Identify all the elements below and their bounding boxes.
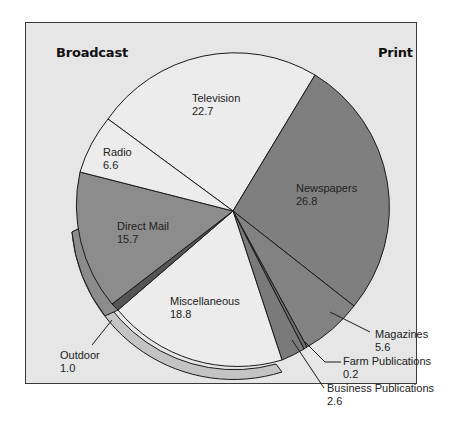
label-business-publications: Business Publications 2.6 — [327, 382, 434, 408]
label-direct-mail: Direct Mail 15.7 — [117, 220, 169, 246]
label-miscellaneous: Miscellaneous 18.8 — [170, 295, 240, 321]
label-outdoor: Outdoor 1.0 — [60, 349, 100, 375]
callout-business — [292, 340, 324, 388]
group-label-print: Print — [378, 45, 413, 60]
callout-outdoor — [92, 320, 112, 345]
label-radio: Radio 6.6 — [103, 146, 132, 172]
label-television: Television 22.7 — [192, 92, 240, 118]
label-newspapers: Newspapers 26.8 — [296, 182, 357, 208]
group-label-broadcast: Broadcast — [56, 45, 128, 60]
label-magazines: Magazines 5.6 — [375, 328, 428, 354]
label-farm-publications: Farm Publications 0.2 — [343, 355, 431, 381]
